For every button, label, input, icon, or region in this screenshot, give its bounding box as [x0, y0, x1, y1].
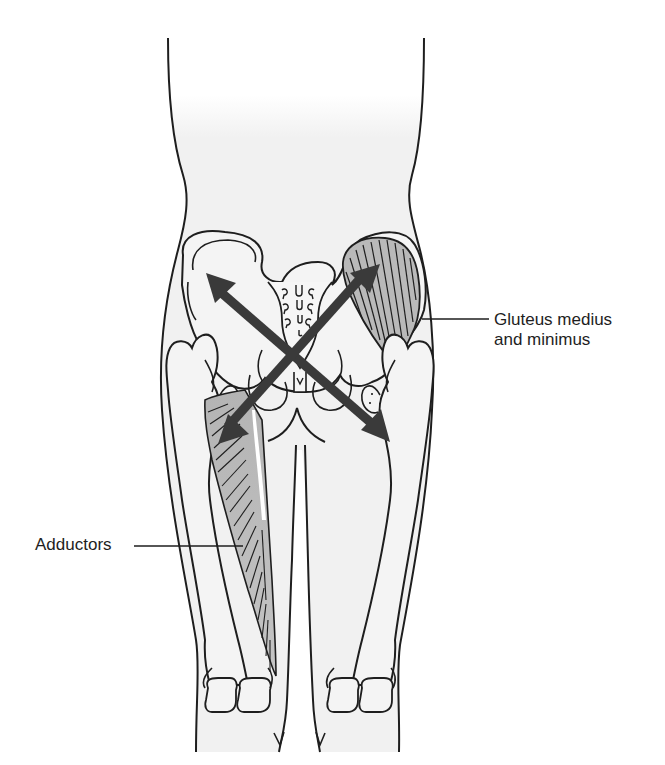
adductors-label: Adductors	[35, 535, 112, 555]
hip-muscles-diagram	[0, 0, 665, 765]
gluteus-medius-minimus-label: Gluteus medius and minimus	[494, 310, 612, 350]
gluteus-label-line2: and minimus	[494, 330, 612, 350]
gluteus-label-line1: Gluteus medius	[494, 310, 612, 330]
